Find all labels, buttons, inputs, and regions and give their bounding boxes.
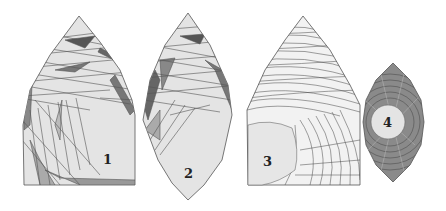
panel-1-label: 1: [103, 152, 112, 167]
panel-2-shape: 2: [142, 13, 232, 200]
figure: 1 2 3: [0, 0, 446, 211]
diagram-canvas: 1 2 3: [0, 0, 446, 211]
panel-3-label: 3: [263, 154, 272, 169]
panel-4-label: 4: [383, 115, 392, 130]
panel-3-shape: 3: [247, 16, 360, 185]
panel-1-shape: 1: [20, 16, 135, 185]
panel-2-label: 2: [184, 166, 193, 181]
